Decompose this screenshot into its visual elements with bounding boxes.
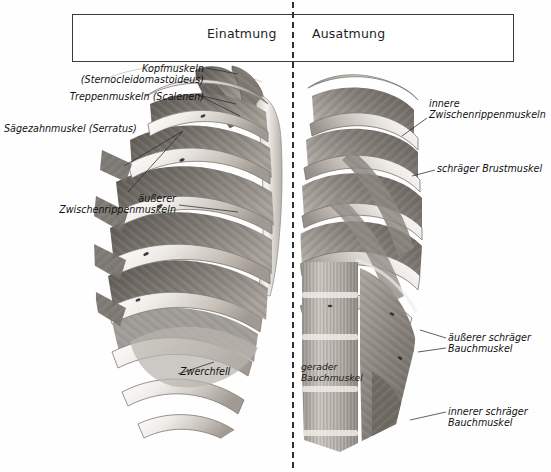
label-gerader-bauchmuskel: gerader Bauchmuskel (301, 362, 367, 384)
label-saegezahnmuskel: Sägezahnmuskel (Serratus) (4, 123, 184, 134)
label-aeusserer-schraeger-bauchmuskel: äußerer schräger Bauchmuskel (448, 332, 551, 355)
label-innere-zwischenrippenmuskeln: innere Zwischenrippenmuskeln (429, 98, 549, 121)
right-thorax-group (300, 75, 422, 456)
label-innerer-schraeger-bauchmuskel: innerer schräger Bauchmuskel (448, 406, 551, 429)
label-kopfmuskeln: Kopfmuskeln (Sternocleidomastoideus) (8, 63, 204, 86)
label-schraeger-brustmuskel: schräger Brustmuskel (437, 163, 551, 174)
label-zwerchfell: Zwerchfell (180, 366, 258, 377)
header-label-einatmung: Einatmung (207, 26, 277, 41)
label-aeussere-zwischenrippenmuskeln: äußerer Zwischenrippenmuskeln (8, 193, 176, 216)
inhale-exhale-divider (292, 2, 294, 468)
label-treppenmuskeln: Treppenmuskeln (Scalenen) (8, 91, 204, 102)
header-label-ausatmung: Ausatmung (312, 26, 385, 41)
figure-canvas: Einatmung Ausatmung Kopfmuskeln (Sternoc… (0, 0, 551, 472)
